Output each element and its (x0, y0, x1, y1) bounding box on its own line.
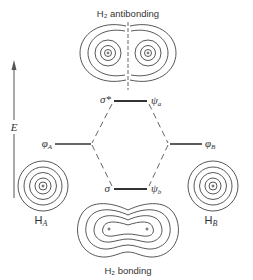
phi-a-label: φA (42, 137, 53, 151)
antibonding-contour-icon (80, 22, 176, 90)
atom-a-label: HA (35, 214, 48, 228)
atom-b-contour-icon (188, 161, 238, 211)
phi-b-label: φB (205, 137, 216, 151)
sigma-label: σ (105, 182, 111, 194)
arrow-up-icon (12, 60, 17, 70)
antibonding-level: σ* ψa (100, 93, 162, 108)
antibonding-title: H₂ antibonding (97, 8, 159, 19)
atom-a-contour-icon (18, 161, 68, 211)
bonding-title: H₂ bonding (105, 265, 152, 276)
psi-b-label: ψb (151, 182, 162, 196)
energy-axis: E (10, 60, 18, 198)
bonding-level: σ ψb (105, 182, 162, 196)
atom-b-label: HB (205, 214, 218, 228)
bonding-contour-icon (78, 204, 179, 257)
psi-a-label: ψa (151, 94, 162, 108)
atomic-level-b: φB (170, 137, 216, 151)
sigma-star-label: σ* (100, 93, 111, 105)
correlation-lines (92, 104, 168, 186)
mo-diagram: H₂ antibonding E σ* ψa φA (0, 0, 253, 280)
energy-label: E (10, 121, 18, 133)
atomic-level-a: φA (42, 137, 91, 151)
